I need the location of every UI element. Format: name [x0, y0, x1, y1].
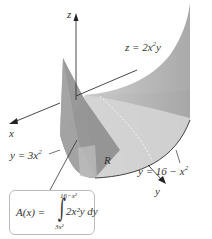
cross-section-formula-box: A(x) = ∫ 16−x² 3x² 2x²y dy — [9, 190, 95, 235]
upper-curve-label: y = 16 − x2 — [138, 164, 188, 177]
surface-eq-text: z = 2x — [125, 41, 153, 53]
x-axis — [14, 103, 60, 122]
y-axis-label: y — [155, 185, 160, 197]
surface-eq-var: y — [156, 41, 161, 53]
leader-lower-curve — [49, 150, 60, 154]
x-axis-label: x — [9, 127, 14, 139]
integral-lower-limit: 3x² — [55, 223, 64, 231]
integral-upper-limit: 16−x² — [60, 192, 77, 200]
lower-curve-label: y = 3x2 — [10, 148, 42, 161]
leader-upper-curve — [176, 150, 180, 163]
x-axis-arrow — [9, 118, 18, 124]
upper-curve-sup: 2 — [185, 164, 189, 172]
formula-lhs: A(x) = — [16, 206, 45, 218]
z-axis-arrow — [74, 13, 79, 21]
cross-section-slice — [78, 145, 97, 178]
z-axis-label: z — [67, 8, 71, 20]
region-r-label: R — [104, 154, 111, 166]
formula-lhs-text: A(x) = — [16, 206, 45, 218]
upper-curve-text: y = 16 − x — [138, 165, 185, 177]
lower-curve-sup: 2 — [38, 148, 42, 156]
lower-curve-text: y = 3x — [10, 149, 38, 161]
surface-equation-label: z = 2x2y — [125, 40, 161, 53]
integrand: 2x²y dy — [66, 205, 98, 217]
